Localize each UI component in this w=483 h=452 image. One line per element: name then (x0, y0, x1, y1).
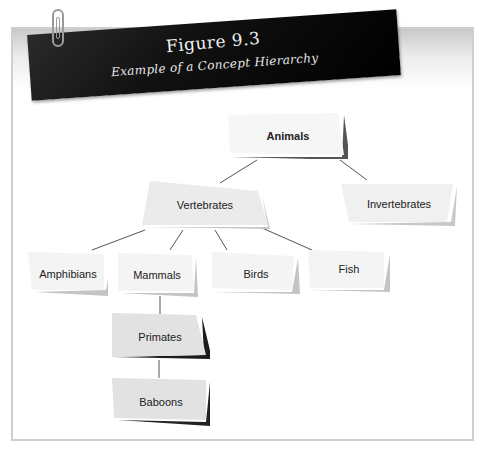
node-birds: Birds (212, 252, 300, 296)
node-vertebrates: Vertebrates (140, 181, 270, 229)
node-animals: Animals (228, 113, 348, 159)
node-label: Baboons (139, 396, 182, 408)
node-label: Invertebrates (367, 198, 431, 210)
node-label: Birds (243, 268, 268, 280)
node-label: Amphibians (39, 268, 96, 280)
node-label: Vertebrates (177, 199, 233, 211)
node-label: Animals (267, 130, 310, 142)
node-mammals: Mammals (116, 253, 198, 297)
node-baboons: Baboons (112, 378, 210, 426)
node-label: Fish (339, 263, 360, 275)
node-primates: Primates (110, 313, 210, 361)
node-label: Primates (138, 331, 181, 343)
node-invertebrates: Invertebrates (341, 182, 457, 226)
node-label: Mammals (133, 269, 181, 281)
node-fish: Fish (308, 250, 390, 294)
node-amphibians: Amphibians (28, 252, 108, 296)
